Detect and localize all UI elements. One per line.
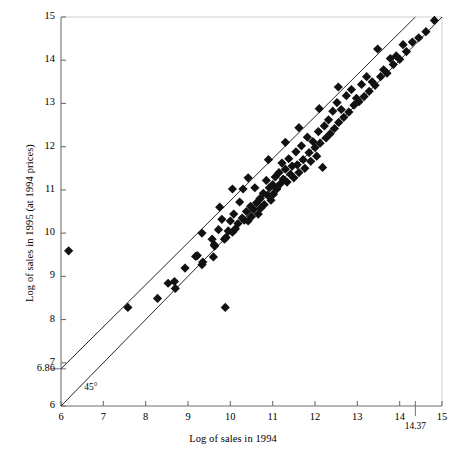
data-point [171, 284, 180, 293]
data-point [328, 107, 337, 116]
data-point [123, 303, 132, 312]
y-tick-label: 15 [17, 10, 55, 21]
data-point [228, 184, 237, 193]
data-point [244, 173, 253, 182]
y-tick-label: 10 [17, 226, 55, 237]
data-point [297, 141, 306, 150]
data-point [215, 203, 224, 212]
plot-canvas [0, 0, 466, 455]
x-tick-label: 11 [253, 411, 293, 422]
data-point [153, 294, 162, 303]
data-point [314, 127, 323, 136]
data-point [281, 138, 290, 147]
x-axis-title: Log of sales in 1994 [0, 433, 466, 444]
x-tick-label: 7 [83, 411, 123, 422]
data-point [64, 246, 73, 255]
x-tick-label: 9 [168, 411, 208, 422]
data-point [421, 27, 430, 36]
x-tick-label: 12 [295, 411, 335, 422]
data-point [164, 279, 173, 288]
data-point [342, 91, 351, 100]
data-point [180, 264, 189, 273]
y-tick-label: 12 [17, 140, 55, 151]
data-point [217, 215, 226, 224]
data-point [291, 147, 300, 156]
data-point [294, 123, 303, 132]
data-point [264, 155, 273, 164]
data-points-group [64, 16, 439, 312]
y-tick-label: 11 [17, 183, 55, 194]
x-special-tick-label: 14.37 [390, 421, 440, 431]
data-point [337, 105, 346, 114]
data-point [221, 303, 230, 312]
data-point [332, 98, 341, 107]
angle-annotation: 45° [84, 382, 97, 392]
data-point [312, 152, 321, 161]
data-point [347, 85, 356, 94]
data-point [250, 183, 259, 192]
x-tick-label: 6 [41, 411, 81, 422]
data-point [373, 44, 382, 53]
y-tick-label: 9 [17, 269, 55, 280]
x-tick-label: 10 [210, 411, 250, 422]
data-point [357, 80, 366, 89]
scatter-plot-figure: Log of sales in 1994 Log of sales in 199… [0, 0, 466, 455]
y-special-tick-label: 6.86 [3, 362, 55, 373]
data-point [214, 225, 223, 234]
x-tick-label: 13 [337, 411, 377, 422]
data-point [238, 184, 247, 193]
y-tick-label: 14 [17, 53, 55, 64]
y-tick-label: 8 [17, 313, 55, 324]
x-tick-label: 8 [126, 411, 166, 422]
fitted-line [61, 17, 415, 369]
y-tick-label: 6 [17, 399, 55, 410]
data-point [315, 104, 324, 113]
data-point [306, 157, 315, 166]
data-point [197, 229, 206, 238]
data-point [235, 197, 244, 206]
data-point [299, 155, 308, 164]
data-point [318, 163, 327, 172]
y-tick-label: 13 [17, 96, 55, 107]
